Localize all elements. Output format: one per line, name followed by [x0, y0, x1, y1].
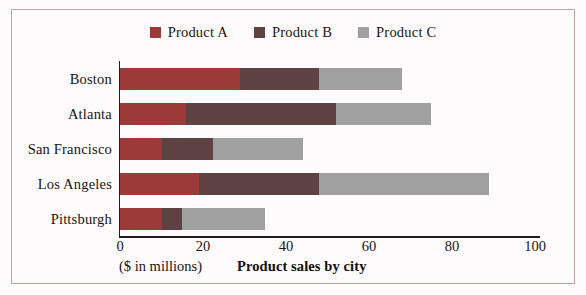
bar-segment-san-francisco-product-b[interactable] — [162, 138, 214, 160]
bar-segment-san-francisco-product-c[interactable] — [213, 138, 302, 160]
bar-row-pittsburgh[interactable] — [120, 208, 265, 230]
y-axis-category-labels: Boston Atlanta San Francisco Los Angeles… — [14, 61, 112, 236]
legend-label-product-c: Product C — [376, 24, 436, 41]
bar-series-container — [120, 61, 535, 236]
legend-item-product-a: Product A — [150, 24, 228, 41]
x-tick-label-100: 100 — [524, 238, 546, 255]
bar-segment-pittsburgh-product-c[interactable] — [182, 208, 265, 230]
y-axis-label-los-angeles: Los Angeles — [38, 176, 112, 193]
legend-swatch-product-a — [150, 27, 161, 38]
y-axis-label-atlanta: Atlanta — [68, 106, 112, 123]
bar-segment-los-angeles-product-b[interactable] — [199, 173, 319, 195]
x-axis-tick-labels: 020406080100 — [120, 238, 535, 258]
bar-row-atlanta[interactable] — [120, 103, 431, 125]
bar-segment-atlanta-product-c[interactable] — [336, 103, 431, 125]
y-axis-label-boston: Boston — [70, 71, 112, 88]
bar-row-san-francisco[interactable] — [120, 138, 303, 160]
x-tick-label-20: 20 — [196, 238, 211, 255]
bar-segment-boston-product-b[interactable] — [240, 68, 319, 90]
legend-label-product-a: Product A — [168, 24, 228, 41]
y-axis-label-san-francisco: San Francisco — [28, 141, 112, 158]
bar-segment-atlanta-product-b[interactable] — [186, 103, 335, 125]
bar-segment-san-francisco-product-a[interactable] — [120, 138, 162, 160]
bar-row-los-angeles[interactable] — [120, 173, 489, 195]
bar-segment-los-angeles-product-a[interactable] — [120, 173, 199, 195]
x-tick-label-0: 0 — [116, 238, 123, 255]
legend-swatch-product-b — [254, 27, 265, 38]
x-tick-label-40: 40 — [279, 238, 294, 255]
legend-item-product-c: Product C — [358, 24, 436, 41]
x-tick-label-60: 60 — [362, 238, 377, 255]
legend-label-product-b: Product B — [272, 24, 332, 41]
y-axis-label-pittsburgh: Pittsburgh — [51, 211, 112, 228]
x-axis-title: Product sales by city — [237, 258, 367, 275]
bar-row-boston[interactable] — [120, 68, 402, 90]
bar-segment-atlanta-product-a[interactable] — [120, 103, 186, 125]
legend-swatch-product-c — [358, 27, 369, 38]
bar-segment-boston-product-c[interactable] — [319, 68, 402, 90]
bar-segment-pittsburgh-product-a[interactable] — [120, 208, 162, 230]
chart-figure: Product A Product B Product C Boston Atl… — [0, 0, 586, 295]
bar-segment-los-angeles-product-c[interactable] — [319, 173, 489, 195]
chart-legend: Product A Product B Product C — [0, 24, 586, 41]
plot-area — [120, 61, 535, 236]
bar-segment-pittsburgh-product-b[interactable] — [162, 208, 183, 230]
x-tick-label-80: 80 — [445, 238, 460, 255]
legend-item-product-b: Product B — [254, 24, 332, 41]
bar-segment-boston-product-a[interactable] — [120, 68, 240, 90]
x-axis-unit-note: ($ in millions) — [119, 258, 202, 275]
